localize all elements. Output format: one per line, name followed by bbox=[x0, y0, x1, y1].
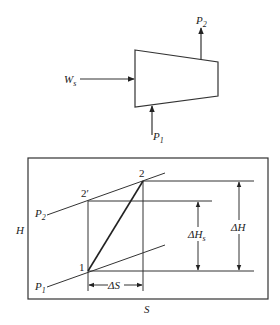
hs-diagram: ΔHs ΔH ΔS 2 2′ 1 P2 P1 H S bbox=[15, 158, 268, 315]
inlet-label: P1 bbox=[152, 130, 164, 145]
process-line bbox=[88, 181, 143, 271]
isobar-p2 bbox=[47, 173, 165, 215]
outlet-label: P2 bbox=[195, 14, 207, 29]
delta-s-label: ΔS bbox=[107, 279, 120, 291]
work-label: Ws bbox=[64, 73, 76, 88]
isobar-p2-label: P2 bbox=[34, 207, 46, 222]
point-2prime-label: 2′ bbox=[81, 187, 89, 199]
y-axis-label: H bbox=[15, 224, 25, 236]
isobar-p1-label: P1 bbox=[34, 280, 46, 295]
isobar-p1 bbox=[47, 245, 165, 287]
point-1-label: 1 bbox=[79, 261, 85, 273]
compressor-body bbox=[135, 50, 218, 107]
figure: Ws P1 P2 ΔHs ΔH ΔS 2 2′ 1 bbox=[0, 0, 280, 325]
point-2-label: 2 bbox=[139, 167, 145, 179]
x-axis-label: S bbox=[144, 303, 150, 315]
compressor-schematic: Ws P1 P2 bbox=[64, 14, 218, 145]
delta-h-label: ΔH bbox=[230, 221, 246, 233]
